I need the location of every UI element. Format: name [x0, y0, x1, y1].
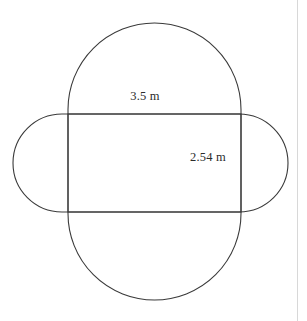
- right-divider-line: [297, 0, 298, 321]
- figure-canvas: [0, 0, 307, 321]
- dimension-label-side: 2.54 m: [190, 150, 226, 165]
- horizontal-stadium-shape: [13, 114, 288, 212]
- dimension-label-top: 3.5 m: [130, 89, 159, 104]
- geometry-figure: 3.5 m 2.54 m: [0, 0, 307, 321]
